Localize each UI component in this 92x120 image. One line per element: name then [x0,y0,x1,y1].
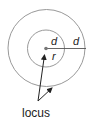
locus-diagram: d d r locus [0,0,92,120]
arrow-to-center [38,55,45,101]
arrow-to-outer-circle [38,88,52,101]
label-outer-d: d [73,35,80,47]
label-inner-d: d [51,35,58,47]
label-radius: r [52,50,57,62]
center-point [44,47,48,51]
caption-locus: locus [22,106,50,120]
